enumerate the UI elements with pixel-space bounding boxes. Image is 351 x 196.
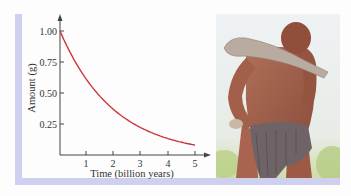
x-tick-label: 5 (193, 158, 198, 169)
stone-tool (229, 119, 243, 129)
x-tick-label: 1 (84, 158, 89, 169)
y-ticks (60, 31, 64, 124)
y-axis-title: Amount (g) (26, 63, 38, 113)
y-tick-label: 0.50 (40, 88, 58, 99)
head (281, 22, 311, 54)
y-axis-arrow-icon (58, 14, 63, 21)
y-tick-label: 0.75 (40, 57, 58, 68)
chart-svg: 1.00 0.75 0.50 0.25 1 2 3 4 5 Time (bill… (0, 0, 216, 196)
x-axis-title: Time (billion years) (90, 168, 174, 180)
y-tick-label: 0.25 (40, 119, 58, 130)
decay-curve (60, 31, 195, 145)
y-tick-label: 1.00 (40, 26, 58, 37)
x-axis-arrow-icon (204, 153, 211, 158)
caveman-svg (216, 14, 340, 178)
x-ticks (86, 151, 195, 155)
caveman-illustration (216, 14, 340, 178)
decay-chart: 1.00 0.75 0.50 0.25 1 2 3 4 5 Time (bill… (0, 0, 216, 196)
